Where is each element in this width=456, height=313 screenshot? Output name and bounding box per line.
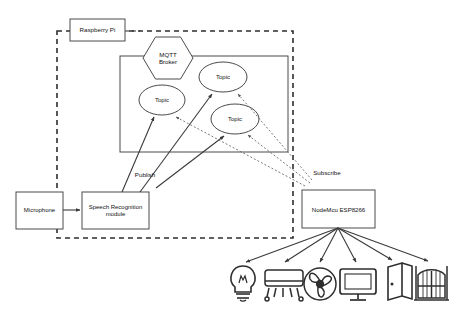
topic-1-ellipse xyxy=(139,85,185,115)
diagram-canvas: Raspberry Pi MQTT Broker Topic Topic Top… xyxy=(0,0,456,313)
microphone-box xyxy=(16,192,63,229)
raspberry-pi-box xyxy=(70,19,125,41)
topic-3-ellipse xyxy=(211,104,259,134)
air-conditioner-icon xyxy=(265,270,303,301)
monitor-icon xyxy=(340,269,376,300)
nodemcu-box xyxy=(302,190,375,228)
gate-icon xyxy=(414,266,449,300)
door-icon xyxy=(388,263,412,300)
fan-icon xyxy=(304,268,336,300)
topic-2-ellipse xyxy=(199,62,247,92)
edge-nodemcu-to-gate xyxy=(338,228,428,261)
architecture-diagram xyxy=(0,0,456,313)
light-bulb-icon xyxy=(231,266,255,301)
speech-recognition-box xyxy=(82,192,149,229)
